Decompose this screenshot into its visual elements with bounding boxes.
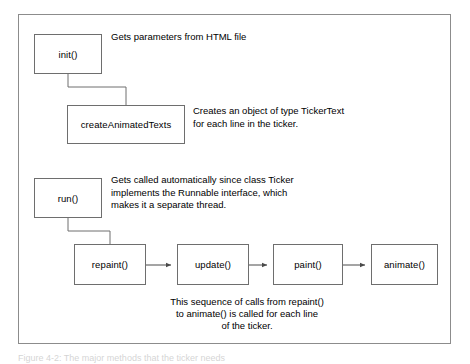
description-init: Gets parameters from HTML file <box>111 31 351 44</box>
node-repaint[interactable]: repaint() <box>74 244 146 285</box>
node-update[interactable]: update() <box>177 244 249 285</box>
figure-caption: Figure 4-2: The major methods that the t… <box>18 352 448 364</box>
node-create-animated-texts[interactable]: createAnimatedTexts <box>67 105 185 144</box>
description-sequence: This sequence of calls from repaint() to… <box>102 296 392 332</box>
node-paint[interactable]: paint() <box>273 244 343 285</box>
node-init[interactable]: init() <box>34 34 102 74</box>
node-animate[interactable]: animate() <box>371 244 438 285</box>
node-run[interactable]: run() <box>34 178 102 218</box>
description-run: Gets called automatically since class Ti… <box>111 174 371 212</box>
description-create-animated-texts: Creates an object of type TickerText for… <box>193 105 423 130</box>
